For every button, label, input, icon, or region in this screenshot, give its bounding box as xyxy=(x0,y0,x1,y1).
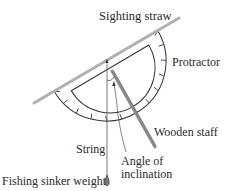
angle-arc xyxy=(107,77,114,81)
diagram-graphic xyxy=(0,0,238,191)
label-sighting-straw: Sighting straw xyxy=(99,10,172,23)
label-string: String xyxy=(76,143,105,156)
label-protractor: Protractor xyxy=(172,56,220,69)
wooden-staff xyxy=(112,71,155,147)
label-angle-line2: inclination xyxy=(121,168,172,181)
label-sinker: Fishing sinker weight xyxy=(2,175,106,188)
leader-arrow-icon xyxy=(112,81,115,86)
clinometer-diagram: Sighting straw Protractor Wooden staff S… xyxy=(0,0,238,191)
wooden-staff-edge xyxy=(113,70,156,146)
label-wooden-staff: Wooden staff xyxy=(154,126,218,139)
